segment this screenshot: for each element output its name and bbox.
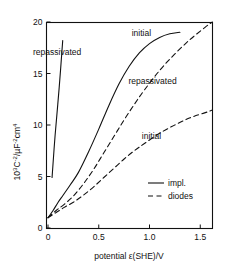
x-axis-ticks: 00.51.01.5 <box>46 225 207 242</box>
y-tick-label: 5 <box>38 172 43 182</box>
y-tick-label: 15 <box>33 69 43 79</box>
annotation-impl-initial: initial <box>132 28 151 38</box>
x-tick-label: 1.0 <box>144 232 156 242</box>
svg-text:103C-2/µF-2cm4: 103C-2/µF-2cm4 <box>12 123 22 180</box>
legend-label-diodes: diodes <box>168 191 193 201</box>
curve-impl-initial <box>48 32 180 217</box>
curve-annotations: repassivatedinitialrepassivatedinitial <box>33 28 177 141</box>
annotation-diodes-initial: initial <box>142 131 161 141</box>
y-axis-label: 103C-2/µF-2cm4 <box>12 123 22 180</box>
ylabel-slash: /µF <box>12 144 22 156</box>
ylabel-exp4: 4 <box>12 123 18 127</box>
legend-label-impl: impl. <box>168 178 186 188</box>
capacitance-potential-chart: 05101520 00.51.01.5 repassivatedinitialr… <box>0 0 227 270</box>
y-tick-label: 20 <box>33 17 43 27</box>
legend: impl.diodes <box>148 178 193 201</box>
y-tick-label: 10 <box>33 120 43 130</box>
annotation-diodes-repassivated: repassivated <box>128 76 176 86</box>
x-tick-label: 0 <box>46 232 51 242</box>
x-axis-label: potential ε(SHE)/V <box>94 251 164 261</box>
ylabel-base3: cm <box>12 127 22 138</box>
y-tick-label: 0 <box>38 223 43 233</box>
curve-diodes-initial <box>48 110 212 218</box>
annotation-impl-repassivated: repassivated <box>33 47 81 57</box>
figure-container: 05101520 00.51.01.5 repassivatedinitialr… <box>0 0 227 270</box>
ylabel-base1: 10 <box>12 171 22 181</box>
x-tick-label: 1.5 <box>194 232 206 242</box>
curve-impl-repassivated <box>52 41 63 178</box>
x-tick-label: 0.5 <box>93 232 105 242</box>
